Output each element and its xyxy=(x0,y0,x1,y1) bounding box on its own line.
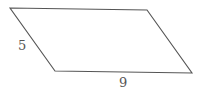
parallelogram-diagram: 5 9 xyxy=(0,0,200,92)
side-length-label: 5 xyxy=(18,38,26,53)
parallelogram-shape xyxy=(10,8,192,73)
base-length-label: 9 xyxy=(119,75,127,90)
